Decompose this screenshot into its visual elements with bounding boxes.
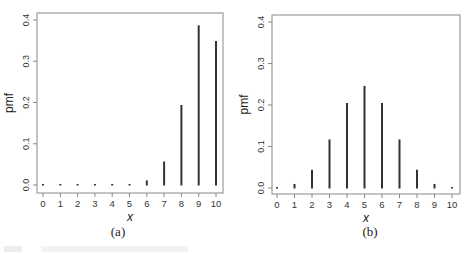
- x-tick-label: 3: [92, 198, 97, 209]
- pmf-chart-b: 0.00.10.20.30.4pmf012345678910x: [236, 0, 472, 254]
- x-tick-label: 10: [447, 199, 458, 210]
- x-tick-label: 4: [110, 198, 115, 209]
- y-tick-label: 0.3: [256, 57, 266, 70]
- y-axis-label: pmf: [237, 94, 251, 115]
- x-tick-label: 0: [40, 198, 45, 209]
- y-tick-label: 0.3: [21, 55, 31, 68]
- x-tick-label: 1: [58, 198, 63, 209]
- x-tick-label: 7: [161, 198, 166, 209]
- x-tick-label: 6: [379, 199, 384, 210]
- plot-frame: [272, 15, 460, 194]
- y-tick-label: 0.0: [256, 182, 266, 195]
- x-tick-label: 6: [144, 198, 149, 209]
- x-tick-label: 2: [75, 198, 80, 209]
- pmf-chart-a: 0.00.10.20.30.4pmf012345678910x: [0, 0, 236, 254]
- x-axis-label: x: [362, 211, 370, 225]
- x-tick-label: 1: [292, 199, 297, 210]
- x-tick-label: 5: [362, 199, 367, 210]
- x-tick-label: 8: [179, 198, 184, 209]
- panel-label-a: (a): [88, 224, 148, 240]
- y-tick-label: 0.1: [21, 137, 31, 150]
- x-tick-label: 9: [432, 199, 437, 210]
- x-tick-label: 5: [127, 198, 132, 209]
- plot-frame: [37, 13, 223, 193]
- y-tick-label: 0.0: [21, 179, 31, 192]
- x-tick-label: 2: [309, 199, 314, 210]
- x-tick-label: 0: [274, 199, 279, 210]
- y-tick-label: 0.4: [256, 16, 266, 29]
- panel-b: 0.00.10.20.30.4pmf012345678910x (b): [236, 0, 472, 254]
- x-tick-label: 4: [344, 199, 349, 210]
- x-tick-label: 10: [211, 198, 222, 209]
- y-tick-label: 0.4: [21, 14, 31, 27]
- y-tick-label: 0.1: [256, 140, 266, 153]
- figure-caption-cutoff: [4, 246, 464, 252]
- y-tick-label: 0.2: [256, 99, 266, 112]
- x-tick-label: 9: [196, 198, 201, 209]
- x-tick-label: 7: [397, 199, 402, 210]
- panel-a: 0.00.10.20.30.4pmf012345678910x (a): [0, 0, 236, 254]
- x-tick-label: 8: [414, 199, 419, 210]
- x-axis-label: x: [126, 210, 134, 224]
- y-axis-label: pmf: [2, 92, 16, 113]
- y-tick-label: 0.2: [21, 96, 31, 109]
- panel-label-b: (b): [340, 224, 400, 240]
- x-tick-label: 3: [327, 199, 332, 210]
